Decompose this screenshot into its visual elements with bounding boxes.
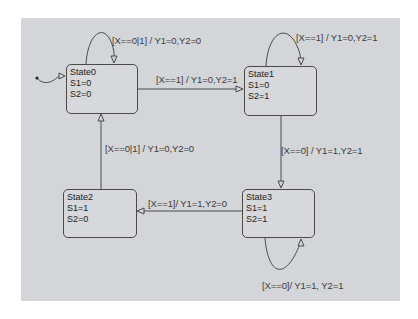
state-name: State0 [70,67,134,78]
state-s1: S1=1 [246,203,311,214]
transition-label-s2-s0: [X==0|1] / Y1=0,Y2=0 [105,143,194,154]
transition-label-s3-loop: [X==0]/ Y1=1, Y2=1 [262,280,343,291]
state-s1: S1=1 [67,203,133,214]
arrowhead-s1-loop [298,58,304,65]
state-name: State3 [246,192,311,203]
arrowhead-s2-s0 [98,114,104,121]
state-s1: S1=0 [248,80,313,91]
state-s2: S2=1 [246,214,311,225]
transition-label-s1-loop: [X==1] / Y1=0,Y2=1 [296,32,377,43]
arrowhead-s0-loop [111,56,117,63]
arrowhead-s1-s3 [278,181,284,188]
state-name: State2 [67,192,133,203]
state-s2: S2=0 [67,214,133,225]
state-0[interactable]: State0 S1=0 S2=0 [66,64,138,114]
arrowhead-s0-s1 [236,86,243,92]
state-2[interactable]: State2 S1=1 S2=0 [63,189,137,238]
state-3[interactable]: State3 S1=1 S2=1 [242,189,315,238]
transition-label-s3-s2: [X==1]/ Y1=1,Y2=0 [148,198,227,209]
transition-arrows [0,0,418,319]
transition-label-s0-loop: [X==0|1] / Y1=0,Y2=0 [112,35,201,46]
state-s2: S2=1 [248,91,313,102]
initial-state-dot [35,76,38,79]
arrowhead-initial [59,73,65,79]
arrowhead-s3-s2 [137,208,144,214]
transition-label-s1-s3: [X==0] / Y1=1,Y2=1 [281,145,362,156]
state-s1: S1=0 [70,78,134,89]
state-s2: S2=0 [70,89,134,100]
state-name: State1 [248,69,313,80]
transition-label-s0-s1: [X==1] / Y1=0,Y2=1 [156,74,237,85]
arrowhead-s3-loop [298,239,304,246]
state-1[interactable]: State1 S1=0 S2=1 [244,66,317,116]
